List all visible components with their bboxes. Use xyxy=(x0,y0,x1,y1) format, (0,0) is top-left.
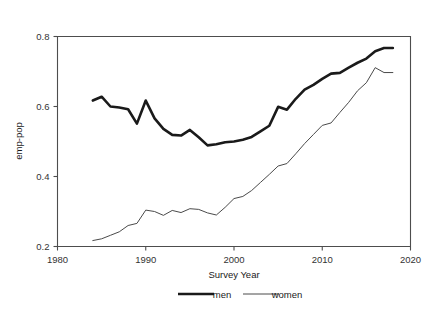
line-chart: 198019902000201020200.20.40.60.8 emp-pop… xyxy=(0,0,434,314)
x-tick-label: 2010 xyxy=(312,254,333,265)
y-tick-label: 0.4 xyxy=(36,171,49,182)
x-tick-label: 2000 xyxy=(223,254,244,265)
x-tick-label: 2020 xyxy=(400,254,421,265)
y-tick-label: 0.2 xyxy=(36,241,49,252)
series-line-women xyxy=(93,68,393,241)
chart-container: 198019902000201020200.20.40.60.8 emp-pop… xyxy=(0,0,434,314)
series-line-men xyxy=(93,48,393,145)
y-axis-title: emp-pop xyxy=(13,122,24,160)
tick-marks xyxy=(54,37,411,251)
x-tick-label: 1990 xyxy=(135,254,156,265)
x-tick-label: 1980 xyxy=(47,254,68,265)
y-tick-label: 0.6 xyxy=(36,101,49,112)
chart-legend: menwomen xyxy=(178,289,302,300)
legend-label-men: men xyxy=(213,289,231,300)
data-series xyxy=(93,48,393,241)
y-tick-label: 0.8 xyxy=(36,31,49,42)
tick-labels: 198019902000201020200.20.40.60.8 xyxy=(36,31,421,265)
x-axis-title: Survey Year xyxy=(208,269,259,280)
legend-label-women: women xyxy=(271,289,303,300)
